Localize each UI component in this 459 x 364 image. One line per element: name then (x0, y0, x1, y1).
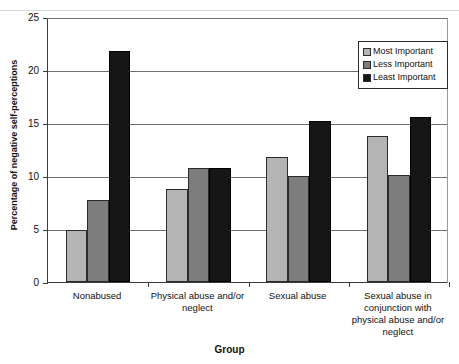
bar-0 (367, 136, 389, 282)
x-axis-tick-mark (449, 282, 450, 287)
x-axis-category-label: Sexual abuse (248, 290, 348, 302)
bar-2 (410, 117, 432, 282)
legend-item-label: Least Important (373, 73, 436, 82)
bar-0 (266, 157, 288, 282)
x-axis-title: Group (0, 344, 459, 355)
bar-group (249, 18, 349, 282)
y-axis-tick-label: 0 (33, 278, 39, 288)
bar-1 (188, 168, 210, 282)
legend-swatch-icon (363, 48, 371, 56)
bar-group (148, 18, 248, 282)
x-axis-tick-mark (148, 282, 149, 287)
y-axis-tick-label: 15 (28, 119, 39, 129)
bar-1 (87, 200, 109, 282)
x-axis-category-label-line: physical abuse and/or (348, 314, 448, 326)
x-axis-category-label-line: neglect (147, 302, 247, 314)
legend-item-label: Less Important (373, 60, 433, 69)
legend-swatch-icon (363, 74, 371, 82)
x-axis-category-label-line: neglect (348, 326, 448, 338)
legend-item[interactable]: Least Important (363, 71, 443, 84)
chart-legend: Most ImportantLess ImportantLeast Import… (358, 41, 448, 89)
x-axis-category-label: Nonabused (47, 290, 147, 302)
y-axis-tick-label: 25 (28, 13, 39, 23)
bar-2 (109, 51, 131, 282)
bar-0 (166, 189, 188, 282)
legend-item-label: Most Important (373, 47, 433, 56)
legend-item[interactable]: Less Important (363, 58, 443, 71)
y-axis-tick-label: 10 (28, 172, 39, 182)
x-axis-category-label: Sexual abuse inconjunction withphysical … (348, 290, 448, 338)
bar-2 (309, 121, 331, 282)
x-axis-category-label: Physical abuse and/orneglect (147, 290, 247, 314)
x-axis-tick-mark (349, 282, 350, 287)
chart-figure: Percentage of negative self-perceptions … (0, 0, 459, 364)
bar-group (48, 18, 148, 282)
y-axis-tick-label: 20 (28, 66, 39, 76)
x-axis-category-label-line: Nonabused (47, 290, 147, 302)
y-axis-tick-mark (43, 283, 48, 284)
x-axis-category-label-line: Sexual abuse (248, 290, 348, 302)
plot-top-border (47, 18, 448, 19)
legend-item[interactable]: Most Important (363, 45, 443, 58)
bar-0 (66, 230, 88, 282)
x-axis-category-label-line: Sexual abuse in (348, 290, 448, 302)
x-axis-category-label-line: Physical abuse and/or (147, 290, 247, 302)
y-axis-tick-label: 5 (33, 225, 39, 235)
bar-1 (388, 175, 410, 282)
legend-swatch-icon (363, 61, 371, 69)
x-axis-category-label-line: conjunction with (348, 302, 448, 314)
scan-artifact-line (0, 10, 459, 11)
x-axis-tick-mark (249, 282, 250, 287)
bar-1 (288, 176, 310, 282)
bar-2 (209, 168, 231, 282)
y-axis-tick-labels: 0510152025 (0, 0, 47, 283)
